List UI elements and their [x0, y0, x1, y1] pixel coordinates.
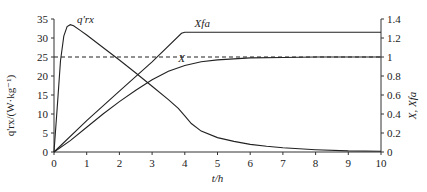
x-tick-label: 9	[346, 157, 352, 169]
y-right-axis-title: X, Xfa	[406, 91, 418, 120]
series-group	[54, 25, 381, 152]
line-chart: 0123456789100510152025303500.20.40.60.81…	[0, 0, 427, 192]
curve-label: Xfa	[194, 17, 211, 29]
labels-group: q'rxXfaX	[77, 13, 210, 64]
y-left-tick-label: 0	[43, 146, 49, 158]
y-left-axis-title: q'rx/(W·kg⁻¹)	[4, 74, 17, 136]
curve-label: q'rx	[77, 13, 94, 25]
x-tick-label: 0	[51, 157, 57, 169]
y-right-tick-label: 0.4	[387, 108, 401, 120]
y-right-tick-label: 1.4	[387, 13, 401, 25]
y-left-tick-label: 10	[37, 108, 49, 120]
y-right-tick-label: 1	[387, 51, 393, 63]
x-tick-label: 6	[247, 157, 253, 169]
axes: 0123456789100510152025303500.20.40.60.81…	[4, 13, 418, 184]
y-right-tick-label: 0.2	[387, 127, 401, 139]
y-left-tick-label: 35	[37, 13, 49, 25]
x-tick-label: 10	[376, 157, 388, 169]
x-tick-label: 8	[313, 157, 319, 169]
y-left-tick-label: 25	[37, 51, 49, 63]
y-left-tick-label: 15	[37, 89, 49, 101]
y-right-tick-label: 0.8	[387, 70, 401, 82]
y-left-tick-label: 20	[37, 70, 49, 82]
x-tick-label: 5	[215, 157, 221, 169]
y-right-tick-label: 1.2	[387, 32, 401, 44]
curve-label: X	[177, 52, 186, 64]
series-xfa-line	[54, 32, 381, 152]
y-right-tick-label: 0	[387, 146, 393, 158]
x-tick-label: 3	[149, 157, 155, 169]
x-axis-title: t/h	[212, 172, 224, 184]
y-left-tick-label: 5	[43, 127, 49, 139]
y-right-tick-label: 0.6	[387, 89, 401, 101]
x-tick-label: 4	[182, 157, 188, 169]
series-qrx-line	[54, 25, 381, 152]
x-tick-label: 1	[84, 157, 90, 169]
y-left-tick-label: 30	[37, 32, 49, 44]
x-tick-label: 2	[117, 157, 123, 169]
x-tick-label: 7	[280, 157, 286, 169]
